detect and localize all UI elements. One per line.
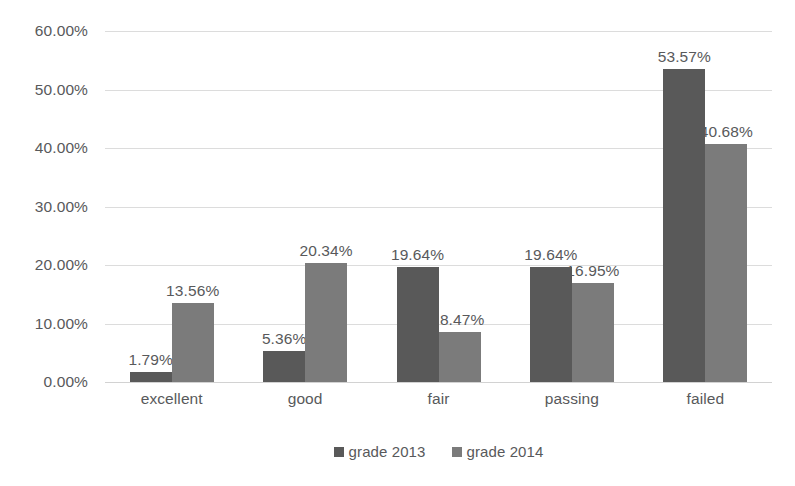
bar-value-label: 1.79% xyxy=(128,351,172,369)
legend-swatch-icon xyxy=(334,447,344,457)
bar-2013-excellent[interactable]: 1.79% xyxy=(130,372,172,382)
x-axis-tick-label-failed: failed xyxy=(639,390,772,408)
bar-2014-good[interactable]: 20.34% xyxy=(305,263,347,382)
bar-2013-good[interactable]: 5.36% xyxy=(263,351,305,382)
bar-group-good: 5.36% 20.34% xyxy=(238,31,371,382)
y-axis-tick-label: 50.00% xyxy=(0,81,88,99)
bar-group-passing: 19.64% 16.95% xyxy=(505,31,638,382)
bar-value-label: 5.36% xyxy=(262,330,306,348)
bar-2013-failed[interactable]: 53.57% xyxy=(663,69,705,382)
bar-2014-failed[interactable]: 40.68% xyxy=(705,144,747,382)
bar-2013-passing[interactable]: 19.64% xyxy=(530,267,572,382)
y-axis-tick-label: 0.00% xyxy=(0,373,88,391)
bar-value-label: 53.57% xyxy=(658,48,711,66)
bar-value-label: 40.68% xyxy=(700,123,753,141)
bar-value-label: 13.56% xyxy=(166,282,219,300)
x-axis-baseline xyxy=(105,382,772,383)
y-axis-tick-label: 10.00% xyxy=(0,315,88,333)
bar-2014-excellent[interactable]: 13.56% xyxy=(172,303,214,382)
y-axis-tick-label: 20.00% xyxy=(0,256,88,274)
bar-value-label: 19.64% xyxy=(391,246,444,264)
legend-label: grade 2013 xyxy=(349,443,426,460)
bar-value-label: 8.47% xyxy=(440,311,484,329)
x-axis-tick-label-good: good xyxy=(238,390,371,408)
legend-item-grade-2014[interactable]: grade 2014 xyxy=(452,443,544,460)
x-axis-labels: excellent good fair passing failed xyxy=(105,390,772,408)
y-axis-labels: 60.00% 50.00% 40.00% 30.00% 20.00% 10.00… xyxy=(0,0,88,486)
bar-2013-fair[interactable]: 19.64% xyxy=(397,267,439,382)
bar-2014-fair[interactable]: 8.47% xyxy=(439,332,481,382)
x-axis-tick-label-excellent: excellent xyxy=(105,390,238,408)
bar-value-label: 20.34% xyxy=(300,242,353,260)
bar-2014-passing[interactable]: 16.95% xyxy=(572,283,614,382)
y-axis-tick-label: 40.00% xyxy=(0,139,88,157)
legend-item-grade-2013[interactable]: grade 2013 xyxy=(334,443,426,460)
bar-chart: 60.00% 50.00% 40.00% 30.00% 20.00% 10.00… xyxy=(0,0,795,486)
y-axis-tick-label: 30.00% xyxy=(0,198,88,216)
bar-group-failed: 53.57% 40.68% xyxy=(639,31,772,382)
legend-swatch-icon xyxy=(452,447,462,457)
bar-group-fair: 19.64% 8.47% xyxy=(372,31,505,382)
x-axis-tick-label-fair: fair xyxy=(372,390,505,408)
bar-groups: 1.79% 13.56% 5.36% 20.34% 19.64% xyxy=(105,31,772,382)
x-axis-tick-label-passing: passing xyxy=(505,390,638,408)
bar-value-label: 16.95% xyxy=(566,262,619,280)
y-axis-tick-label: 60.00% xyxy=(0,22,88,40)
chart-legend: grade 2013 grade 2014 xyxy=(105,443,772,460)
legend-label: grade 2014 xyxy=(467,443,544,460)
bar-group-excellent: 1.79% 13.56% xyxy=(105,31,238,382)
